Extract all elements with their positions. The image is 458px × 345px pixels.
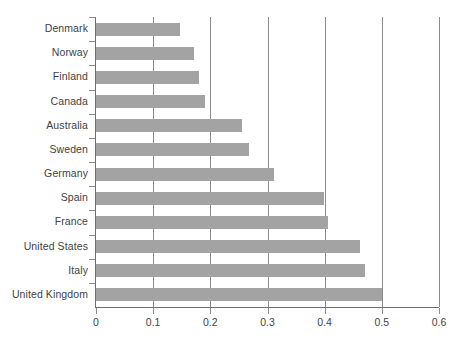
- bar: [96, 216, 328, 229]
- gridline: [439, 17, 440, 307]
- bar: [96, 23, 180, 36]
- x-tick-label: 0.1: [146, 316, 161, 328]
- x-tick-label: 0.4: [317, 316, 332, 328]
- bar: [96, 192, 324, 205]
- y-tick: [89, 235, 95, 236]
- y-axis-category-labels: DenmarkNorwayFinlandCanadaAustraliaSwede…: [0, 17, 88, 307]
- category-label: Norway: [0, 46, 88, 58]
- y-tick: [89, 17, 95, 18]
- y-tick: [89, 259, 95, 260]
- bar: [96, 168, 274, 181]
- y-tick: [89, 162, 95, 163]
- category-label: United States: [0, 240, 88, 252]
- category-label: Finland: [0, 70, 88, 82]
- y-tick: [89, 65, 95, 66]
- x-tick-label: 0: [93, 316, 99, 328]
- y-tick: [89, 138, 95, 139]
- category-label: United Kingdom: [0, 288, 88, 300]
- category-label: France: [0, 215, 88, 227]
- bar: [96, 143, 249, 156]
- x-tick: [382, 308, 383, 314]
- x-tick-label: 0.3: [260, 316, 275, 328]
- y-tick: [89, 283, 95, 284]
- y-tick: [89, 90, 95, 91]
- x-tick: [96, 308, 97, 314]
- bar: [96, 288, 382, 301]
- category-label: Canada: [0, 95, 88, 107]
- category-label: Spain: [0, 191, 88, 203]
- plot-area: [96, 17, 439, 307]
- bar: [96, 240, 360, 253]
- y-tick: [89, 114, 95, 115]
- horizontal-bar-chart: 00.10.20.30.40.50.6 DenmarkNorwayFinland…: [0, 0, 458, 345]
- category-label: Italy: [0, 264, 88, 276]
- category-label: Sweden: [0, 143, 88, 155]
- bar: [96, 71, 199, 84]
- x-tick: [210, 308, 211, 314]
- category-label: Germany: [0, 167, 88, 179]
- x-tick: [153, 308, 154, 314]
- category-label: Denmark: [0, 22, 88, 34]
- y-tick: [89, 186, 95, 187]
- x-tick-label: 0.2: [203, 316, 218, 328]
- bar: [96, 119, 242, 132]
- x-tick: [268, 308, 269, 314]
- bar: [96, 95, 205, 108]
- bar: [96, 264, 365, 277]
- category-label: Australia: [0, 119, 88, 131]
- x-tick: [325, 308, 326, 314]
- x-tick-label: 0.5: [375, 316, 390, 328]
- x-tick-label: 0.6: [432, 316, 447, 328]
- x-tick: [439, 308, 440, 314]
- y-tick: [89, 41, 95, 42]
- bar: [96, 47, 194, 60]
- y-tick: [89, 210, 95, 211]
